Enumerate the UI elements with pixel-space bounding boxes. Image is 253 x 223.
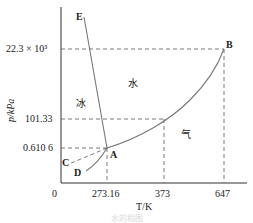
point-e-label: E xyxy=(76,12,83,22)
x-axis-label: T/K xyxy=(136,202,152,212)
x-origin-label: 0 xyxy=(52,189,57,199)
y-tick-critical: 22.3 × 10³ xyxy=(6,44,47,54)
y-tick-triple: 0.610 6 xyxy=(23,143,53,153)
point-c-label: C xyxy=(62,158,69,168)
curve-ab-vaporization xyxy=(107,49,224,148)
point-b-label: B xyxy=(226,40,233,50)
y-axis-label: p/kPa xyxy=(6,99,16,122)
region-ice-label: 冰 xyxy=(76,99,86,109)
x-tick-647: 647 xyxy=(215,189,230,199)
x-tick-373: 373 xyxy=(155,189,170,199)
figure-caption: 水的相图 xyxy=(0,212,253,223)
point-d-label: D xyxy=(74,168,81,178)
curve-ae-melting xyxy=(84,17,107,148)
point-a-label: A xyxy=(110,150,117,160)
y-tick-101: 101.33 xyxy=(25,114,53,124)
curve-ad-sublimation xyxy=(86,148,107,171)
x-tick-273: 273.16 xyxy=(92,189,120,199)
region-water-label: 水 xyxy=(128,79,138,89)
region-vapor-label: 气 xyxy=(181,130,191,140)
